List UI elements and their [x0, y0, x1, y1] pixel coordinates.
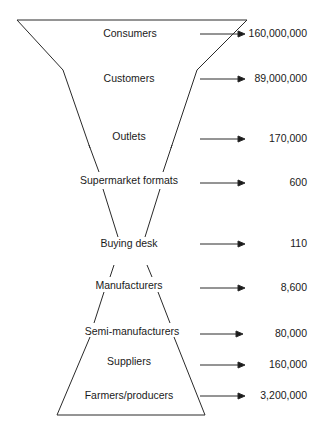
funnel-diagram: Consumers 160,000,000 Customers 89,000,0…: [0, 0, 324, 438]
level-value-customers: 89,000,000: [254, 72, 307, 84]
level-label-buying-desk: Buying desk: [100, 237, 157, 249]
level-value-consumers: 160,000,000: [249, 27, 307, 39]
level-label-supermarket-formats: Supermarket formats: [80, 174, 178, 186]
level-value-semi-manufacturers: 80,000: [275, 327, 307, 339]
level-value-supermarket-formats: 600: [289, 176, 307, 188]
level-label-manufacturers: Manufacturers: [95, 279, 162, 291]
level-label-semi-manufacturers: Semi-manufacturers: [85, 325, 180, 337]
level-label-consumers: Consumers: [103, 27, 157, 39]
level-value-farmers-producers: 3,200,000: [260, 389, 307, 401]
level-value-outlets: 170,000: [269, 132, 307, 144]
arrows: [200, 31, 245, 399]
level-label-suppliers: Suppliers: [107, 355, 151, 367]
funnel-outline: [0, 0, 324, 438]
level-value-manufacturers: 8,600: [281, 281, 307, 293]
level-value-buying-desk: 110: [290, 237, 307, 249]
level-label-outlets: Outlets: [112, 130, 145, 142]
level-label-farmers-producers: Farmers/producers: [85, 389, 174, 401]
level-value-suppliers: 160,000: [269, 358, 307, 370]
level-label-customers: Customers: [104, 72, 155, 84]
